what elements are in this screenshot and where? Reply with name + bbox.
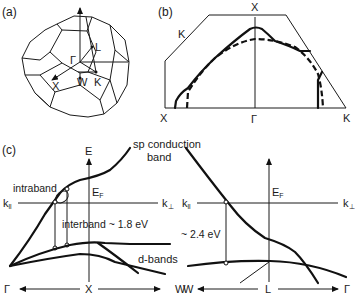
point-X-top: X bbox=[251, 1, 259, 13]
k-par-label-right: kll bbox=[182, 197, 191, 210]
point-K-label: K bbox=[94, 76, 102, 88]
fermi-level-label: EF bbox=[92, 186, 104, 199]
intraband-label: intraband bbox=[13, 182, 57, 194]
fermi-level-label-right: EF bbox=[272, 186, 284, 199]
point-gamma-label: Γ bbox=[70, 54, 76, 66]
panel-a-label: (a) bbox=[2, 5, 17, 19]
gap-label: ~ 2.4 eV bbox=[181, 228, 220, 240]
panel-c-left-band-structure: (c) E kll k⊥ EF intraband interband ~ 1.… bbox=[2, 138, 201, 295]
point-K-right: K bbox=[343, 112, 351, 124]
axis-X: X bbox=[85, 283, 93, 295]
point-X-bottom: X bbox=[160, 112, 168, 124]
point-W-label: W bbox=[77, 76, 88, 88]
figure: (a) L Γ X W K (b) bbox=[0, 0, 361, 302]
k-perp-label-right: k⊥ bbox=[343, 197, 355, 210]
panel-b-fermi-surface: (b) K X X Γ K bbox=[158, 1, 351, 125]
k-par-label: kll bbox=[3, 197, 12, 210]
panel-a-brillouin-zone: (a) L Γ X W K bbox=[2, 5, 129, 117]
sp-band-label-2: band bbox=[147, 151, 171, 163]
point-K-left: K bbox=[178, 28, 186, 40]
axis-L: L bbox=[265, 283, 271, 295]
panel-b-label: (b) bbox=[158, 5, 173, 19]
panel-c-right-band-structure: kll k⊥ EF ~ 2.4 eV W L Γ bbox=[181, 148, 355, 295]
energy-axis-label: E bbox=[85, 145, 92, 157]
point-X-label: X bbox=[52, 80, 60, 92]
axis-gamma-right: Γ bbox=[344, 283, 350, 295]
fermi-contour-solid bbox=[175, 28, 310, 109]
panel-c-label: (c) bbox=[2, 143, 16, 157]
axis-gamma-left: Γ bbox=[4, 283, 10, 295]
axis-W-right: W bbox=[183, 283, 194, 295]
point-gamma: Γ bbox=[251, 113, 257, 125]
bz-outline bbox=[22, 16, 129, 117]
point-L-label: L bbox=[95, 41, 101, 53]
sp-conduction-band bbox=[10, 148, 130, 266]
interband-label: interband ~ 1.8 eV bbox=[62, 218, 148, 230]
sp-band-label-1: sp conduction bbox=[133, 138, 201, 150]
k-perp-label: k⊥ bbox=[162, 197, 174, 210]
d-bands-label: d-bands bbox=[138, 253, 178, 265]
